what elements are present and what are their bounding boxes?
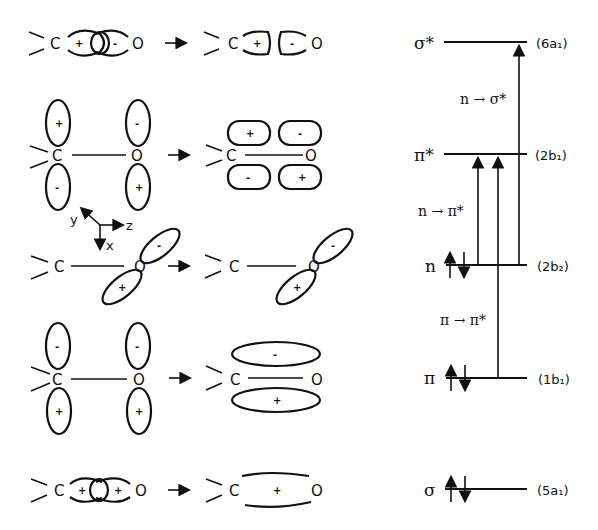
svg-text:+: + — [55, 406, 63, 417]
svg-text:-: - — [55, 341, 59, 352]
svg-text:(2b₁): (2b₁) — [535, 148, 567, 163]
svg-text:-: - — [113, 38, 117, 49]
svg-text:C: C — [54, 482, 64, 500]
svg-text:C: C — [52, 147, 62, 165]
svg-text:-: - — [157, 240, 161, 251]
svg-text:-: - — [273, 349, 277, 360]
svg-text:-: - — [55, 182, 59, 193]
svg-text:+: + — [273, 395, 281, 406]
svg-text:π: π — [424, 368, 435, 388]
svg-text:+: + — [55, 118, 63, 129]
sigma-right: C + O — [206, 473, 323, 507]
svg-text:O: O — [311, 482, 323, 500]
svg-text:C: C — [54, 258, 64, 276]
svg-text:+: + — [135, 182, 143, 193]
oxygen-label: O — [132, 35, 144, 53]
svg-text:-: - — [135, 341, 139, 352]
pi-right: C O - + — [206, 342, 323, 412]
svg-text:π*: π* — [414, 145, 434, 165]
svg-text:+: + — [78, 485, 86, 496]
mo-diagram: C + - O C + - O C + - — [0, 0, 598, 530]
carbon-label: C — [50, 35, 60, 53]
svg-text:+: + — [118, 282, 126, 293]
level-label: σ* — [414, 33, 435, 53]
svg-text:C: C — [230, 371, 240, 389]
sigma-star-left: C + - O — [29, 31, 144, 56]
svg-text:O: O — [131, 147, 143, 165]
svg-text:C: C — [229, 258, 239, 276]
level-pi: π (1b₁) — [424, 365, 570, 391]
svg-text:O: O — [133, 371, 145, 389]
transition-label: n → π* — [418, 203, 464, 219]
svg-text:-: - — [331, 240, 335, 251]
energy-level-diagram: σ* (6a₁) π* (2b₁) n (2b₂) π (1b₁) σ — [414, 33, 570, 502]
svg-text:+: + — [246, 128, 254, 139]
svg-text:(5a₁): (5a₁) — [537, 483, 569, 498]
svg-text:O: O — [311, 371, 323, 389]
row-pi-star-orbitals: C + - O - + C O + - - + — [30, 100, 321, 210]
svg-text:O: O — [305, 147, 317, 165]
symmetry-label: (6a₁) — [536, 36, 568, 51]
transition-label: n → σ* — [460, 91, 506, 107]
svg-text:-: - — [246, 172, 250, 183]
svg-text:+: + — [253, 38, 261, 49]
row-n-orbitals: C O - + C O - + — [31, 223, 358, 310]
pi-left: C - + O - + — [31, 323, 151, 434]
level-sigma-star: σ* (6a₁) — [414, 33, 568, 53]
svg-text:+: + — [114, 485, 122, 496]
svg-text:(1b₁): (1b₁) — [538, 372, 570, 387]
n-right: C O - + — [205, 223, 358, 310]
svg-text:-: - — [290, 38, 294, 49]
svg-text:+: + — [293, 282, 301, 293]
row-sigma-orbitals: C + + O C + O — [31, 473, 323, 507]
row-sigma-star-orbitals: C + - O C + - O — [29, 31, 323, 56]
svg-text:(2b₂): (2b₂) — [537, 259, 569, 274]
axis-x-label: x — [106, 238, 114, 253]
row-pi-orbitals: C - + O - + C O - + — [31, 323, 323, 434]
svg-text:+: + — [273, 485, 281, 496]
axis-z-label: z — [126, 218, 133, 233]
pi-star-left: C + - O - + — [30, 100, 150, 210]
svg-text:C: C — [52, 371, 62, 389]
n-left: C O - + — [31, 223, 185, 310]
level-pi-star: π* (2b₁) — [414, 145, 567, 165]
svg-text:σ: σ — [424, 480, 436, 500]
level-n: n (2b₂) — [425, 252, 569, 278]
axis-y-label: y — [70, 212, 78, 227]
svg-text:C: C — [226, 147, 236, 165]
svg-text:O: O — [311, 35, 323, 53]
coordinate-axes: y z x — [70, 209, 133, 253]
svg-text:n: n — [425, 256, 436, 276]
svg-text:O: O — [135, 482, 147, 500]
sigma-left: C + + O — [31, 478, 147, 502]
transition-label: π → π* — [440, 312, 486, 328]
pi-star-right: C O + - - + — [206, 121, 321, 189]
sigma-star-right: C + - O — [204, 32, 323, 56]
svg-text:-: - — [135, 118, 139, 129]
svg-text:-: - — [298, 128, 302, 139]
level-sigma: σ (5a₁) — [424, 476, 569, 502]
svg-text:+: + — [75, 38, 83, 49]
svg-text:+: + — [135, 406, 143, 417]
svg-text:C: C — [229, 482, 239, 500]
svg-text:+: + — [298, 172, 306, 183]
svg-text:C: C — [228, 35, 238, 53]
